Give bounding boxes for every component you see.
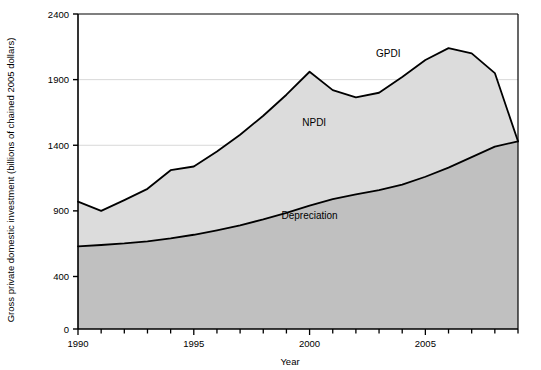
y-tick-label-900: 900 (53, 205, 69, 216)
series-label-npdi: NPDI (302, 117, 326, 128)
y-tick-label-1400: 1400 (48, 140, 69, 151)
y-axis-title: Gross private domestic investment (billi… (5, 38, 16, 323)
y-tick-label-1900: 1900 (48, 74, 69, 85)
y-tick-label-400: 400 (53, 271, 69, 282)
stacked-area-chart: 0400900140019002400 1990199520002005 Yea… (0, 0, 541, 370)
x-tick-label-1990: 1990 (67, 338, 88, 349)
x-tick-label-2005: 2005 (415, 338, 436, 349)
x-tick-label-2000: 2000 (299, 338, 320, 349)
chart-container: 0400900140019002400 1990199520002005 Yea… (0, 0, 541, 370)
series-label-gpdi: GPDI (376, 48, 400, 59)
x-axis-title: Year (280, 356, 299, 367)
x-tick-label-1995: 1995 (183, 338, 204, 349)
y-tick-label-2400: 2400 (48, 9, 69, 20)
series-label-depreciation: Depreciation (282, 210, 338, 221)
y-tick-label-0: 0 (64, 324, 69, 335)
